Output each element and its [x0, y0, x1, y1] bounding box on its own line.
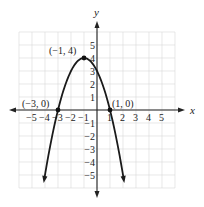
x-tick-label: −2: [65, 112, 76, 123]
x-tick-label: 3: [133, 112, 138, 123]
x-tick-label: −5: [26, 112, 37, 123]
vertex-label: (−1, 4): [49, 45, 76, 57]
x-tick-label: 2: [120, 112, 125, 123]
y-tick-label: 1: [90, 92, 95, 103]
x-axis-right-arrow-icon: [178, 108, 185, 113]
y-tick-label: −2: [84, 131, 95, 142]
y-tick-label: −3: [84, 144, 95, 155]
left-intercept-label: (−3, 0): [22, 98, 49, 110]
y-tick-label: −4: [84, 157, 95, 168]
x-tick-label: 4: [146, 112, 151, 123]
y-tick-label: −1: [84, 118, 95, 129]
y-axis-down-arrow-icon: [95, 191, 100, 198]
y-axis-label: y: [93, 6, 99, 18]
right-intercept-label: (1, 0): [112, 98, 134, 110]
x-axis-left-arrow-icon: [9, 108, 16, 113]
parabola-graph: x y −5−4−3−2−112345 54321−1−2−3−4−5 (−1,…: [0, 0, 204, 207]
y-tick-label: −5: [84, 170, 95, 181]
y-axis-up-arrow-icon: [95, 21, 100, 28]
left-intercept-point: [56, 108, 61, 113]
x-axis-label: x: [189, 104, 195, 116]
vertex-point: [82, 56, 87, 61]
y-tick-label: 5: [90, 40, 95, 51]
x-tick-labels: −5−4−3−2−112345: [26, 112, 164, 123]
y-tick-label: 2: [90, 79, 95, 90]
x-tick-label: 5: [159, 112, 164, 123]
x-tick-label: −4: [39, 112, 50, 123]
